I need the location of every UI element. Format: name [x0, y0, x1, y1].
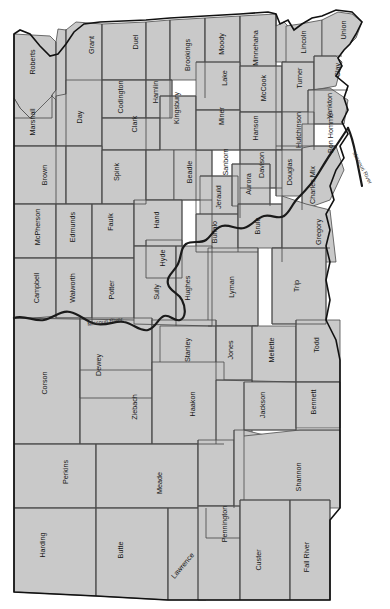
- county-label-miner: Miner: [217, 106, 226, 125]
- county-label-mcpherson: McPherson: [33, 209, 42, 245]
- county-label-faulk: Faulk: [106, 213, 115, 231]
- county-label-mellette: Mellette: [267, 337, 276, 362]
- county-label-spink: Spink: [112, 163, 121, 181]
- county-label-trip: Trip: [292, 280, 301, 292]
- county-label-brookings: Brookings: [183, 39, 192, 71]
- map-svg: RobertsGrantDuelBrookingsMoodyMinnehahaL…: [0, 0, 390, 609]
- county-label-kingsbury: Kingsbury: [172, 92, 181, 124]
- county-label-codington: Codington: [116, 81, 125, 114]
- county-label-hughes: Hughes: [183, 275, 192, 300]
- county-label-jones: Jones: [226, 340, 235, 360]
- county-label-buffalo: Buffalo: [210, 221, 219, 243]
- county-label-clark: Clark: [130, 115, 139, 132]
- county-label-fall-river: Fall River: [302, 541, 311, 572]
- county-label-harding: Harding: [38, 532, 47, 557]
- county-label-jerauld: Jerauld: [214, 185, 223, 209]
- county-label-shannon: Shannon: [294, 463, 303, 492]
- county-label-meade: Meade: [155, 472, 164, 494]
- county-label-douglas: Douglas: [285, 158, 294, 185]
- county-label-gregory: Gregory: [314, 219, 323, 245]
- county-label-aurora: Aurora: [244, 173, 253, 195]
- county-label-turner: Turner: [295, 67, 304, 89]
- county-label-haakon: Haakon: [188, 392, 197, 417]
- county-label-marshall: Marshall: [28, 108, 37, 136]
- river-label-missouri: Missouri River: [351, 151, 373, 185]
- county-label-walworth: Walworth: [68, 273, 77, 303]
- county-label-beadle: Beadle: [185, 161, 194, 183]
- county-label-todd: Todd: [312, 337, 321, 353]
- county-label-custer: Custer: [254, 549, 263, 571]
- county-label-edmunds: Edmunds: [68, 211, 77, 242]
- county-label-mccook: McCook: [259, 74, 268, 101]
- county-label-dewey: Dewey: [94, 354, 103, 376]
- county-label-sully: Sully: [152, 284, 161, 300]
- county-label-grant: Grant: [87, 36, 96, 54]
- south-dakota-county-map: RobertsGrantDuelBrookingsMoodyMinnehahaL…: [0, 0, 390, 609]
- county-label-clay: Clay: [333, 62, 342, 77]
- county-label-duel: Duel: [131, 34, 140, 49]
- county-label-charles-mix: Charles Mix: [308, 166, 317, 204]
- county-label-corson: Corson: [40, 371, 49, 394]
- county-label-ziebach: Ziebach: [130, 394, 139, 420]
- county-label-moody: Moody: [217, 33, 226, 55]
- county-label-lake: Lake: [220, 70, 229, 86]
- county-label-pennington: Pennington: [220, 506, 229, 542]
- county-label-campbell: Campbell: [32, 272, 41, 303]
- county-label-jackson: Jackson: [258, 392, 267, 418]
- county-label-brown: Brown: [40, 165, 49, 185]
- county-label-hamlin: Hamlin: [151, 81, 160, 103]
- county-label-butte: Butte: [116, 542, 125, 559]
- county-label-minnehaha: Minnehaha: [251, 30, 260, 66]
- county-label-hanson: Hanson: [251, 116, 260, 141]
- county-label-sanborn: Sanborn: [221, 148, 230, 175]
- county-label-hyde: Hyde: [158, 250, 167, 267]
- county-label-roberts: Roberts: [28, 49, 37, 75]
- county-label-bon-homme: Bon Homme: [326, 113, 335, 153]
- county-label-union: Union: [339, 21, 348, 40]
- county-label-day: Day: [75, 110, 84, 123]
- county-label-brule: Brule: [253, 218, 262, 235]
- county-label-hand: Hand: [152, 211, 161, 228]
- county-label-davison: Davison: [257, 152, 266, 178]
- county-label-lyman: Lyman: [227, 276, 236, 297]
- county-label-stanley: Stanley: [183, 338, 192, 362]
- county-label-bennett: Bennett: [309, 390, 318, 415]
- county-label-hutchinson: Hutchinson: [294, 112, 303, 148]
- county-label-perkins: Perkins: [61, 460, 70, 484]
- county-label-potter: Potter: [107, 280, 116, 300]
- county-label-lincoln: Lincoln: [299, 31, 308, 54]
